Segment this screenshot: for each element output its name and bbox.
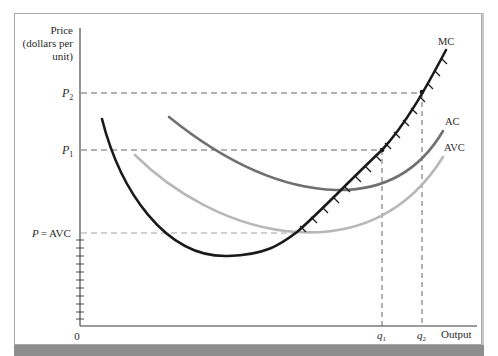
ac-curve: [169, 117, 443, 190]
ac-label: AC: [445, 116, 460, 127]
mc-label: MC: [438, 36, 454, 47]
y-axis-label-line3: unit): [52, 50, 73, 63]
y-axis-label-line1: Price: [50, 24, 73, 36]
avc-curve: [135, 155, 443, 232]
y-axis-label-line2: (dollars per: [23, 37, 74, 50]
avc-label: AVC: [444, 142, 465, 153]
reference-lines: [81, 93, 422, 326]
mc-hatch-marks: [300, 58, 447, 232]
q2-label: q2: [417, 329, 427, 343]
cost-curves-chart: Price (dollars per unit) P2 P1 P= AVC 0 …: [0, 0, 498, 356]
origin-label: 0: [74, 330, 80, 342]
axes: [80, 28, 477, 326]
p-avc-label: P= AVC: [31, 227, 71, 239]
mc-p2-point: [420, 90, 425, 95]
mc-curve: [102, 50, 446, 256]
p1-label: P1: [61, 143, 73, 159]
q1-label: q1: [377, 329, 387, 343]
p2-label: P2: [61, 86, 73, 102]
x-axis-label: Output: [441, 328, 472, 340]
mc-p1-point: [380, 148, 385, 153]
